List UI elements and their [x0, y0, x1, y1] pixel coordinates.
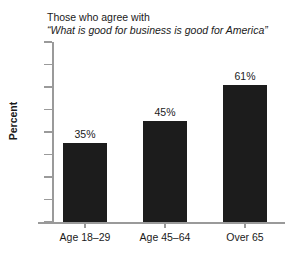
- x-axis-category-label: Age 18–29: [40, 231, 130, 243]
- y-axis-tick: [44, 176, 52, 178]
- y-axis-tick: [44, 154, 52, 156]
- x-axis-tick: [244, 223, 246, 228]
- chart-title: Those who agree with “What is good for b…: [47, 11, 287, 37]
- x-axis-category-label: Age 45–64: [120, 231, 210, 243]
- x-axis-tick: [164, 223, 166, 228]
- bar: [223, 85, 267, 222]
- x-axis-line: [38, 222, 285, 224]
- chart-title-line-1: Those who agree with: [47, 11, 287, 24]
- y-axis-tick: [44, 221, 52, 223]
- x-axis-tick: [84, 223, 86, 228]
- x-axis-category-label: Over 65: [200, 231, 290, 243]
- y-axis-tick: [44, 64, 52, 66]
- bar-value-label: 35%: [55, 128, 115, 140]
- y-axis-tick: [44, 109, 52, 111]
- bar: [63, 143, 107, 222]
- y-axis-line: [52, 42, 54, 223]
- y-axis-tick: [44, 199, 52, 201]
- chart-title-line-2: “What is good for business is good for A…: [47, 24, 287, 37]
- bar-chart-figure: Those who agree with “What is good for b…: [0, 0, 295, 259]
- y-axis-tick: [44, 41, 52, 43]
- y-axis-title: Percent: [7, 86, 19, 156]
- y-axis-tick: [44, 131, 52, 133]
- bar-value-label: 45%: [135, 106, 195, 118]
- y-axis-tick: [44, 86, 52, 88]
- bar-value-label: 61%: [215, 70, 275, 82]
- bar: [143, 121, 187, 222]
